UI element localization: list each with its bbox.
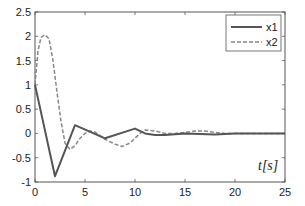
line-chart: -1-0.500.511.522.5 0510152025 t[s] x1 x2 bbox=[0, 0, 305, 206]
y-tick-label: 0.5 bbox=[16, 103, 31, 115]
x-tick-label: 20 bbox=[229, 186, 241, 198]
y-tick-label: 0 bbox=[25, 127, 31, 139]
y-tick-labels: -1-0.500.511.522.5 bbox=[12, 6, 31, 188]
x-axis-label: t[s] bbox=[258, 158, 278, 173]
x-tick-label: 5 bbox=[82, 186, 88, 198]
x-tick-label: 15 bbox=[179, 186, 191, 198]
x-tick-labels: 0510152025 bbox=[32, 186, 291, 198]
y-tick-label: -0.5 bbox=[12, 152, 31, 164]
y-tick-label: 1 bbox=[25, 79, 31, 91]
legend-label-x1: x1 bbox=[266, 21, 278, 33]
legend-label-x2: x2 bbox=[266, 36, 278, 48]
x-tick-label: 0 bbox=[32, 186, 38, 198]
x-tick-label: 25 bbox=[279, 186, 291, 198]
y-tick-label: -1 bbox=[21, 176, 31, 188]
y-tick-label: 1.5 bbox=[16, 55, 31, 67]
legend: x1 x2 bbox=[226, 15, 281, 51]
y-tick-label: 2 bbox=[25, 30, 31, 42]
x-tick-label: 10 bbox=[129, 186, 141, 198]
y-tick-label: 2.5 bbox=[16, 6, 31, 18]
